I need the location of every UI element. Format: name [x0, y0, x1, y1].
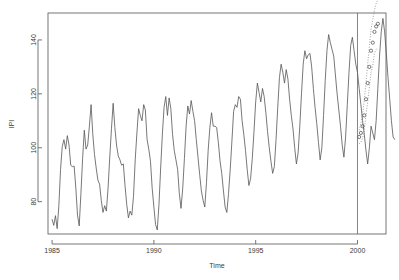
y-tick-label: 100 [31, 142, 38, 154]
y-axis-title: IPI [8, 120, 15, 129]
y-tick-label: 120 [31, 88, 38, 100]
x-tick-label: 1985 [44, 247, 60, 254]
plot-root: 1985199019952000 80100120140 Time IPI [0, 0, 399, 280]
x-tick-label: 1990 [146, 247, 162, 254]
x-tick-label: 2000 [350, 247, 366, 254]
x-tick-label: 1995 [248, 247, 264, 254]
chart-background [0, 0, 399, 280]
ipi-time-series-chart: 1985199019952000 80100120140 Time IPI [0, 0, 399, 280]
x-axis-title: Time [209, 262, 224, 269]
y-tick-label: 140 [31, 34, 38, 46]
y-tick-label: 80 [31, 198, 38, 206]
